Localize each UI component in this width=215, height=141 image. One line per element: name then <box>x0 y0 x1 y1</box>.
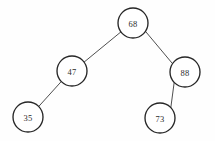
tree-canvas: 6847883573 <box>0 0 215 141</box>
tree-edge-n88-n73 <box>171 82 174 108</box>
tree-node-88[interactable]: 88 <box>170 57 200 87</box>
tree-node-68[interactable]: 68 <box>118 8 148 38</box>
node-label-35: 35 <box>23 113 32 123</box>
binary-search-tree-figure: 6847883573 <box>0 0 215 141</box>
tree-nodes: 6847883573 <box>13 8 200 133</box>
tree-edge-n47-n35 <box>39 82 62 107</box>
tree-edge-n68-n88 <box>146 32 173 64</box>
tree-node-35[interactable]: 35 <box>13 102 43 132</box>
node-label-88: 88 <box>180 68 189 78</box>
tree-node-47[interactable]: 47 <box>57 56 87 86</box>
node-label-47: 47 <box>67 67 76 77</box>
node-label-73: 73 <box>155 114 164 124</box>
node-label-68: 68 <box>128 19 137 29</box>
tree-edge-n68-n47 <box>84 32 121 62</box>
tree-node-73[interactable]: 73 <box>145 103 175 133</box>
